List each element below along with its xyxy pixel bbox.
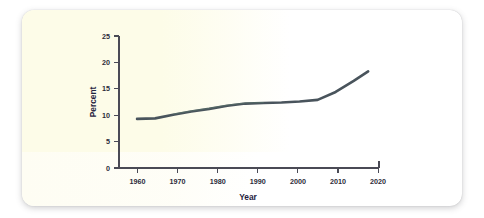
x-tick-label-2010: 2010 — [330, 177, 346, 186]
x-axis-title: Year — [239, 192, 257, 202]
y-tick-label-20: 20 — [102, 58, 110, 67]
x-axis-ticks — [138, 168, 379, 173]
x-tick-label-1960: 1960 — [130, 177, 146, 186]
x-tick-label-1970: 1970 — [170, 177, 186, 186]
x-axis-tick-labels: 1960 1970 1980 1990 2000 2010 2020 — [130, 177, 387, 186]
y-tick-label-15: 15 — [102, 84, 110, 93]
y-tick-label-0: 0 — [106, 164, 110, 173]
y-tick-label-25: 25 — [102, 32, 110, 41]
chart-card: 0 5 10 15 20 25 1960 1970 1980 1990 2000… — [22, 10, 462, 206]
x-tick-label-1990: 1990 — [250, 177, 266, 186]
y-tick-label-10: 10 — [102, 111, 110, 120]
y-tick-label-5: 5 — [106, 137, 110, 146]
y-axis-ticks — [114, 36, 119, 168]
series-line-percent — [137, 71, 368, 119]
x-tick-label-2000: 2000 — [290, 177, 306, 186]
x-tick-label-1980: 1980 — [210, 177, 226, 186]
x-tick-label-2020: 2020 — [370, 177, 386, 186]
line-chart: 0 5 10 15 20 25 1960 1970 1980 1990 2000… — [22, 10, 462, 206]
y-axis-title: Percent — [88, 86, 98, 117]
y-axis-tick-labels: 0 5 10 15 20 25 — [102, 32, 110, 173]
